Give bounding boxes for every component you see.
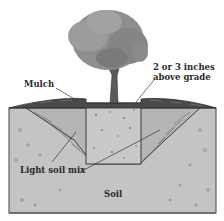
label-above-grade-line2: above grade [153,73,211,83]
root-ball [86,103,141,164]
label-mulch: Mulch [24,80,54,90]
planting-diagram: Mulch 2 or 3 inches above grade Light so… [0,0,224,221]
tree-canopy [68,10,148,70]
diagram-illustration [0,0,224,221]
label-soil: Soil [104,190,122,200]
label-light-soil-mix: Light soil mix [20,166,85,176]
